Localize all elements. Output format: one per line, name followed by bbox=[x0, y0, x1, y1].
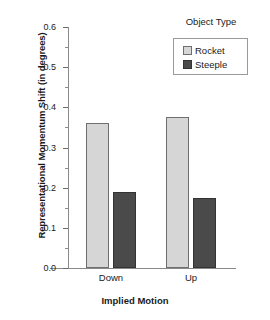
y-tick-major: 0.3 bbox=[63, 148, 68, 149]
y-tick-label: 0.5 bbox=[43, 63, 56, 72]
y-tick-major: 0.1 bbox=[63, 228, 68, 229]
y-tick-label: 0.3 bbox=[43, 143, 56, 152]
bar-down-rocket bbox=[86, 123, 109, 268]
y-tick-minor bbox=[65, 248, 68, 249]
y-tick-major: 0.2 bbox=[63, 188, 68, 189]
y-tick-label: 0.6 bbox=[43, 23, 56, 32]
legend-swatch-rocket-icon bbox=[183, 46, 192, 55]
legend-swatch-steeple-icon bbox=[183, 60, 192, 69]
legend-item-steeple: Steeple bbox=[183, 58, 247, 71]
legend-box: Rocket Steeple bbox=[173, 38, 248, 75]
legend-label-rocket: Rocket bbox=[195, 46, 225, 56]
x-axis-line bbox=[50, 268, 236, 269]
bar-up-rocket bbox=[166, 117, 189, 268]
y-tick-minor bbox=[65, 168, 68, 169]
legend-item-rocket: Rocket bbox=[183, 44, 247, 57]
y-tick-label: 0.1 bbox=[43, 223, 56, 232]
y-tick-label: 0.2 bbox=[43, 183, 56, 192]
x-axis-title: Implied Motion bbox=[0, 295, 270, 306]
x-tick-label-up: Up bbox=[161, 273, 221, 283]
bar-up-steeple bbox=[193, 198, 216, 268]
bar-down-steeple bbox=[113, 192, 136, 268]
legend-label-steeple: Steeple bbox=[195, 60, 227, 70]
y-tick-major: 0.5 bbox=[63, 67, 68, 68]
y-tick-major: 0.0 bbox=[63, 268, 68, 269]
y-tick-minor bbox=[65, 208, 68, 209]
y-tick-label: 0.0 bbox=[43, 264, 56, 273]
legend-title: Object Type bbox=[173, 16, 249, 27]
chart-figure: Representational Momentum Shift (in degr… bbox=[0, 0, 270, 320]
y-tick-minor bbox=[65, 87, 68, 88]
y-tick-major: 0.6 bbox=[63, 27, 68, 28]
y-axis-line bbox=[68, 27, 69, 268]
y-tick-minor bbox=[65, 127, 68, 128]
y-tick-major: 0.4 bbox=[63, 107, 68, 108]
y-tick-minor bbox=[65, 47, 68, 48]
x-tick-label-down: Down bbox=[81, 273, 141, 283]
y-tick-label: 0.4 bbox=[43, 103, 56, 112]
